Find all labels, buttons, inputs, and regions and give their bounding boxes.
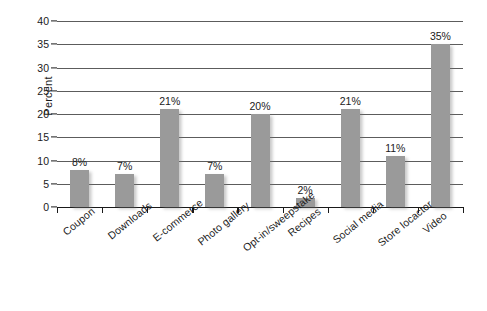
bar-value-label: 11%	[373, 143, 417, 154]
bar	[160, 109, 179, 207]
bar	[341, 109, 360, 207]
bar-value-label: 7%	[103, 161, 147, 172]
gridline-30	[57, 68, 463, 69]
bar	[205, 174, 224, 207]
y-tick-label-25: 25	[25, 86, 49, 97]
bar-chart: Percent 8%7%21%7%20%2%21%11%35% 05101520…	[0, 0, 487, 311]
y-tick-mark-35	[51, 44, 57, 45]
gridline-25	[57, 91, 463, 92]
y-tick-mark-5	[51, 183, 57, 184]
bar-value-label: 7%	[193, 161, 237, 172]
y-tick-label-0: 0	[25, 202, 49, 213]
bar-value-label: 35%	[418, 31, 462, 42]
x-axis-labels: CouponDownloadsE-commercePhoto galleryOp…	[57, 212, 487, 307]
gridline-35	[57, 44, 463, 45]
y-tick-mark-10	[51, 160, 57, 161]
y-tick-mark-25	[51, 90, 57, 91]
y-tick-mark-20	[51, 113, 57, 114]
bar	[115, 174, 134, 207]
y-tick-label-15: 15	[25, 132, 49, 143]
gridline-40	[57, 21, 463, 22]
bar	[386, 156, 405, 207]
plot-area: 8%7%21%7%20%2%21%11%35%	[57, 21, 463, 207]
y-tick-mark-15	[51, 137, 57, 138]
y-tick-label-10: 10	[25, 155, 49, 166]
y-tick-label-35: 35	[25, 39, 49, 50]
y-tick-mark-30	[51, 67, 57, 68]
bar-value-label: 8%	[58, 157, 102, 168]
bar	[431, 44, 450, 207]
bar	[70, 170, 89, 207]
bar-value-label: 21%	[328, 96, 372, 107]
y-tick-label-40: 40	[25, 16, 49, 27]
y-tick-label-30: 30	[25, 62, 49, 73]
bar	[251, 114, 270, 207]
y-tick-label-5: 5	[25, 179, 49, 190]
y-tick-label-20: 20	[25, 109, 49, 120]
y-tick-mark-40	[51, 20, 57, 21]
bar-value-label: 20%	[238, 101, 282, 112]
bar-value-label: 21%	[148, 96, 192, 107]
